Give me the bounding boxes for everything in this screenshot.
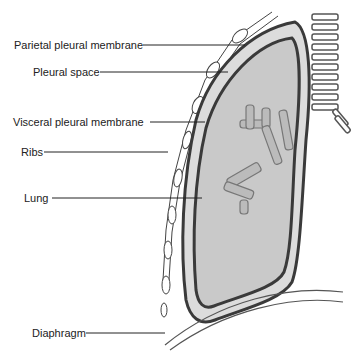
- label-pleural-space: Pleural space: [33, 66, 100, 78]
- label-ribs: Ribs: [21, 146, 43, 158]
- label-lung: Lung: [24, 192, 48, 204]
- label-parietal-pleural-membrane: Parietal pleural membrane: [14, 39, 143, 51]
- label-visceral-pleural-membrane: Visceral pleural membrane: [13, 116, 144, 128]
- trachea-illustration: [312, 14, 351, 134]
- label-diaphragm: Diaphragm: [32, 327, 86, 339]
- lung-diagram: [0, 0, 363, 353]
